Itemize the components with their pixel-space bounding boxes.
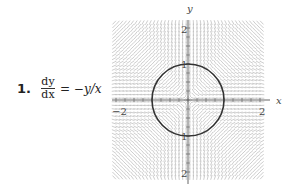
slope-segment <box>120 39 124 42</box>
slope-segment <box>156 57 159 61</box>
slope-segment <box>199 86 203 90</box>
slope-segment <box>127 39 131 43</box>
slope-segment <box>148 68 152 71</box>
slope-segment <box>260 24 264 28</box>
slope-segment <box>260 21 263 25</box>
slope-segment <box>127 42 131 45</box>
slope-segment <box>239 35 242 39</box>
slope-segment <box>235 20 238 24</box>
slope-segment <box>238 136 242 139</box>
slope-segment <box>256 172 259 176</box>
slope-segment <box>152 71 156 74</box>
slope-segment <box>228 46 231 50</box>
slope-segment <box>123 168 126 172</box>
slope-segment <box>127 168 130 172</box>
slope-segment <box>213 68 216 72</box>
slope-segment <box>112 144 116 147</box>
slope-segment <box>138 150 141 154</box>
slope-segment <box>116 43 120 46</box>
slope-segment <box>228 150 231 154</box>
slope-segment <box>138 154 141 158</box>
slope-segment <box>235 61 239 64</box>
slope-segment <box>123 28 126 32</box>
slope-segment <box>127 28 130 32</box>
slope-segment <box>231 61 235 64</box>
slope-segment <box>238 61 242 64</box>
slope-segment <box>130 46 134 49</box>
slope-segment <box>127 50 131 53</box>
slope-segment <box>249 21 252 25</box>
slope-segment <box>145 64 149 67</box>
slope-segment <box>149 143 152 147</box>
slope-segment <box>245 50 249 53</box>
slope-segment <box>116 28 120 32</box>
slope-segment <box>138 20 141 24</box>
slope-segment <box>260 32 264 35</box>
slope-segment <box>112 21 115 25</box>
slope-segment <box>253 165 257 169</box>
slope-segment <box>249 32 252 36</box>
slope-segment <box>246 165 249 169</box>
slope-segment <box>112 161 116 164</box>
slope-segment <box>231 64 235 67</box>
slope-segment <box>167 121 170 125</box>
slope-segment <box>224 140 227 144</box>
slope-segment <box>231 143 235 147</box>
slope-segment <box>148 136 152 140</box>
slope-segment <box>242 143 246 146</box>
slope-segment <box>138 143 142 146</box>
slope-segment <box>228 57 232 61</box>
slope-segment <box>260 176 263 180</box>
slope-segment <box>217 60 220 64</box>
slope-segment <box>246 154 250 157</box>
slope-segment <box>246 32 249 36</box>
slope-segment <box>245 143 249 146</box>
slope-segment <box>134 31 137 35</box>
slope-segment <box>213 64 216 68</box>
slope-segment <box>242 24 245 28</box>
slope-segment <box>238 42 241 46</box>
slope-segment <box>231 57 235 60</box>
slope-segment <box>249 175 252 179</box>
slope-segment <box>235 161 238 165</box>
slope-segment <box>249 24 252 28</box>
slope-segment <box>239 175 242 179</box>
slope-segment <box>152 68 156 71</box>
slope-segment <box>221 60 224 64</box>
slope-segment <box>256 39 260 42</box>
slope-segment <box>260 151 264 154</box>
slope-segment <box>235 42 238 46</box>
slope-segment <box>217 68 221 72</box>
slope-segment <box>123 144 127 147</box>
slope-segment <box>138 28 141 32</box>
slope-segment <box>163 122 167 126</box>
slope-segment <box>112 28 116 31</box>
slope-segment <box>145 150 148 154</box>
slope-segment <box>116 35 120 38</box>
slope-segment <box>130 154 134 158</box>
slope-segment <box>213 129 216 133</box>
slope-segment <box>217 71 221 74</box>
slope-segment <box>134 50 138 53</box>
slope-segment <box>134 147 138 150</box>
slope-segment <box>134 172 137 176</box>
slope-segment <box>246 161 249 165</box>
slope-segment <box>156 60 159 64</box>
slope-segment <box>249 151 253 154</box>
slope-segment <box>203 78 206 82</box>
slope-segment <box>130 53 134 56</box>
slope-segment <box>166 78 170 82</box>
slope-segment <box>141 157 144 161</box>
slope-segment <box>120 21 123 25</box>
slope-segment <box>253 28 256 32</box>
slope-segment <box>220 125 224 128</box>
slope-segment <box>149 57 152 61</box>
slope-segment <box>224 133 228 136</box>
slope-segment <box>217 125 221 128</box>
slope-segment <box>134 35 137 39</box>
slope-segment <box>231 150 234 154</box>
slope-segment <box>256 165 260 168</box>
slope-segment <box>127 24 130 28</box>
slope-segment <box>152 132 156 136</box>
slope-segment <box>134 158 137 162</box>
